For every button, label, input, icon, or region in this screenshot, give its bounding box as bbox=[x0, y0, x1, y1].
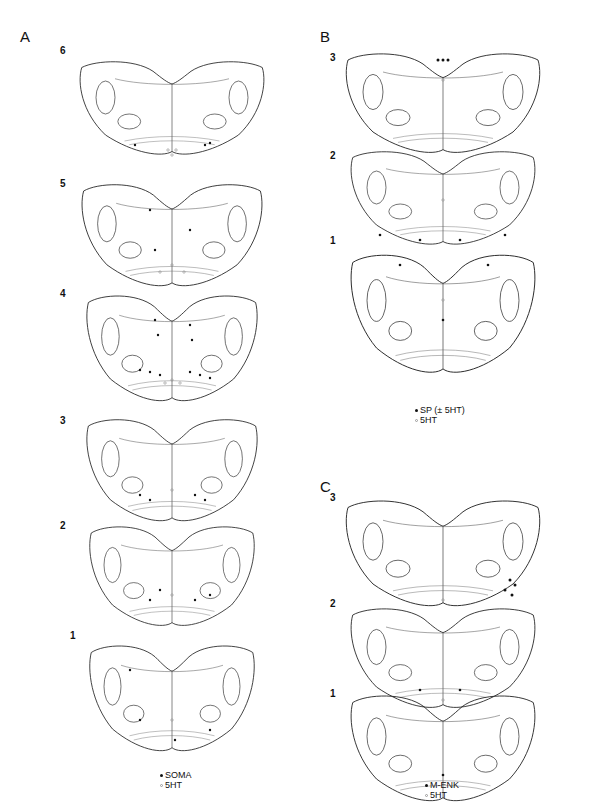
legend-m-enk: M-ENK bbox=[430, 780, 459, 790]
panel-a-section-number: 2 bbox=[60, 520, 66, 531]
panel-c-section-3 bbox=[346, 501, 539, 606]
panel-b-section-3 bbox=[346, 54, 539, 153]
panel-b-section-number: 2 bbox=[330, 150, 336, 161]
panel-a-section-4 bbox=[87, 296, 257, 401]
filled-dot-marker bbox=[415, 409, 418, 412]
legend-5ht: 5HT bbox=[430, 790, 447, 800]
panel-c-section-number: 1 bbox=[330, 688, 336, 699]
panel-a-section-number: 6 bbox=[60, 45, 66, 56]
panel-a-section-3 bbox=[87, 420, 257, 521]
panel-label-b: B bbox=[320, 28, 330, 45]
panel-a-section-5 bbox=[82, 185, 262, 286]
filled-dot-marker bbox=[425, 784, 428, 787]
panel-a-section-1 bbox=[90, 646, 254, 751]
open-dot-marker bbox=[425, 794, 428, 797]
panel-a-section-6 bbox=[80, 62, 264, 154]
panel-a-section-number: 3 bbox=[60, 415, 66, 426]
panel-a-section-number: 4 bbox=[60, 288, 66, 299]
panel-label-a: A bbox=[20, 28, 30, 45]
panel-a-section-number: 1 bbox=[70, 630, 76, 641]
legend-soma: SOMA bbox=[165, 770, 192, 780]
panel-a-section-2 bbox=[90, 527, 254, 626]
panel-c-section-2 bbox=[351, 609, 535, 708]
filled-dot-marker bbox=[160, 774, 163, 777]
panel-a-section-number: 5 bbox=[60, 178, 66, 189]
open-dot-marker bbox=[415, 419, 418, 422]
panel-b-legend: SP (± 5HT) 5HT bbox=[415, 405, 465, 425]
legend-5ht: 5HT bbox=[165, 780, 182, 790]
panel-c-legend: M-ENK 5HT bbox=[425, 780, 459, 800]
open-markers bbox=[159, 79, 444, 721]
panel-c-section-number: 3 bbox=[330, 492, 336, 503]
panel-b-section-1 bbox=[351, 255, 535, 372]
figure-drawing bbox=[0, 0, 592, 805]
panel-b-section-number: 1 bbox=[330, 235, 336, 246]
panel-b-section-number: 3 bbox=[330, 52, 336, 63]
panel-c-section-number: 2 bbox=[330, 598, 336, 609]
panel-a-legend: SOMA 5HT bbox=[160, 770, 192, 790]
legend-5ht: 5HT bbox=[420, 415, 437, 425]
legend-sp: SP (± 5HT) bbox=[420, 405, 465, 415]
panel-b-section-2 bbox=[351, 152, 535, 244]
open-dot-marker bbox=[160, 784, 163, 787]
